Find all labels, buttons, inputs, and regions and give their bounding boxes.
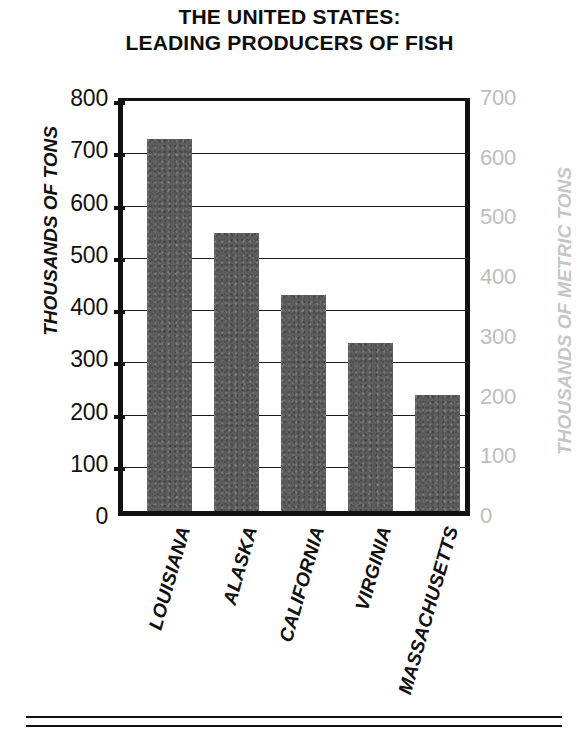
left-tick-label: 100 (46, 450, 108, 477)
category-label-massachusetts: MASSACHUSETTS (394, 524, 463, 697)
bar-alaska (214, 233, 259, 511)
bar-virginia (348, 343, 393, 511)
bar-series (123, 101, 465, 511)
right-tick-label: 100 (480, 443, 536, 469)
right-tick-label: 400 (480, 264, 536, 290)
right-tick-label: 200 (480, 384, 536, 410)
category-label-alaska: ALASKA (218, 524, 261, 607)
right-axis-title: THOUSANDS OF METRIC TONS (554, 146, 576, 476)
left-tick-label: 800 (46, 85, 108, 112)
right-axis-tick-labels: 7006005004003002001000 (480, 98, 536, 516)
title-line-2: LEADING PRODUCERS OF FISH (0, 30, 579, 56)
left-axis-title: THOUSANDS OF TONS (40, 116, 62, 346)
page-title: THE UNITED STATES: LEADING PRODUCERS OF … (0, 4, 579, 55)
category-label-louisiana: LOUISIANA (144, 524, 194, 632)
left-tick-label: 300 (46, 346, 108, 373)
right-tick-label: 500 (480, 204, 536, 230)
category-label-california: CALIFORNIA (275, 524, 329, 645)
bar-massachusetts (415, 395, 460, 511)
title-line-1: THE UNITED STATES: (0, 4, 579, 30)
right-tick-label: 300 (480, 324, 536, 350)
footer-rule-top (26, 716, 562, 718)
footer-rules (26, 716, 562, 730)
right-tick-label: 700 (480, 85, 536, 111)
bar-california (281, 295, 326, 511)
plot-area (118, 98, 470, 516)
bar-louisiana (147, 139, 192, 511)
category-label-virginia: VIRGINIA (351, 524, 396, 613)
category-axis-labels: LOUISIANAALASKACALIFORNIAVIRGINIAMASSACH… (0, 516, 579, 706)
footer-rule-bottom (26, 725, 562, 727)
left-tick-label: 200 (46, 398, 108, 425)
right-tick-label: 600 (480, 145, 536, 171)
